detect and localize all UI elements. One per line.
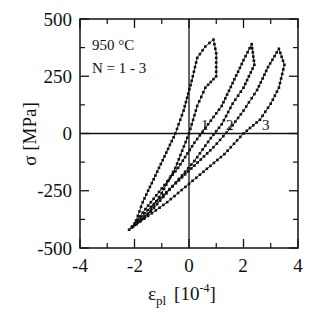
data-point-marker [139,220,142,223]
x-tick-labels: -4 -2 0 2 4 [72,255,303,276]
data-point-marker [169,144,172,147]
data-point-marker [226,93,229,96]
data-point-marker [207,84,210,87]
data-point-marker [242,132,245,135]
data-point-marker [234,98,237,101]
data-point-marker [193,141,196,144]
data-point-marker [206,152,209,155]
x-tick-label: 2 [238,255,248,276]
data-point-marker [237,94,240,97]
data-point-marker [278,86,281,89]
data-point-marker [193,70,196,73]
data-point-marker [184,171,187,174]
data-point-marker [267,66,270,69]
data-point-marker [140,215,143,218]
data-point-marker [212,78,215,81]
data-point-marker [276,90,279,93]
data-point-marker [162,204,165,207]
data-series [128,38,286,231]
data-point-marker [176,128,179,131]
x-title-epsilon: ε [148,283,156,304]
data-point-marker [264,110,267,113]
data-point-marker [175,182,178,185]
y-tick-label: -250 [37,180,72,201]
data-point-marker [199,53,202,56]
data-point-marker [163,184,166,187]
data-point-marker [199,134,202,137]
y-tick-label: 0 [63,123,73,144]
data-point-marker [185,101,188,104]
data-point-marker [167,148,170,151]
data-point-marker [242,109,245,112]
data-point-marker [251,47,254,50]
data-point-marker [215,70,218,73]
data-point-marker [248,47,251,50]
data-point-marker [283,64,286,67]
data-point-marker [237,117,240,120]
data-point-marker [223,153,226,156]
data-point-marker [251,67,254,70]
data-point-marker [210,137,213,140]
data-point-marker [282,60,285,63]
data-point-marker [280,56,283,59]
data-point-marker [202,171,205,174]
y-tick-labels: 500 250 0 -250 -500 [37,9,72,259]
data-point-marker [250,97,253,100]
data-point-marker [282,68,285,71]
data-point-marker [220,123,223,126]
data-point-marker [279,52,282,55]
data-point-marker [246,79,249,82]
x-tick-label: 0 [184,255,194,276]
data-point-marker [176,162,179,165]
data-point-marker [165,191,168,194]
data-point-marker [227,111,230,114]
data-point-marker [273,55,276,58]
data-point-marker [228,90,231,93]
data-point-marker [231,102,234,105]
x-tick-label: 4 [293,255,303,276]
x-tick-label: -4 [72,255,88,276]
data-point-marker [215,112,218,115]
data-point-marker [219,139,222,142]
data-point-marker [193,114,196,117]
data-point-marker [143,217,146,220]
y-tick-label: -500 [37,238,72,259]
data-point-marker [171,173,174,176]
data-point-marker [240,113,243,116]
data-point-marker [173,195,176,198]
data-point-marker [189,84,192,87]
data-point-marker [166,201,169,204]
data-point-marker [156,200,159,203]
data-point-marker [181,114,184,117]
svg-text:εpl[10-4]: εpl[10-4] [148,281,216,308]
data-point-marker [215,52,218,55]
data-point-marker [253,93,256,96]
data-point-marker [212,146,215,149]
data-point-marker [184,173,187,176]
data-point-marker [234,120,237,123]
cycles-annotation: N = 1 - 3 [92,60,146,76]
data-point-marker [132,226,135,229]
x-axis-title: εpl[10-4] [148,281,216,308]
data-point-marker [220,156,223,159]
data-point-marker [223,119,226,122]
data-point-marker [188,132,191,135]
data-point-marker [165,151,168,154]
data-point-marker [204,45,207,48]
data-point-marker [259,119,262,122]
data-point-marker [208,42,211,45]
data-point-marker [183,105,186,108]
data-point-marker [149,186,152,189]
data-point-marker [246,130,249,133]
data-point-marker [189,128,192,131]
data-point-marker [198,100,201,103]
data-point-marker [199,173,202,176]
data-point-marker [249,127,252,130]
data-point-marker [218,127,221,130]
data-point-marker [210,119,213,122]
data-point-marker [174,170,177,173]
data-point-marker [245,105,248,108]
data-point-marker [166,180,169,183]
data-point-marker [204,86,207,89]
data-point-marker [216,142,219,145]
